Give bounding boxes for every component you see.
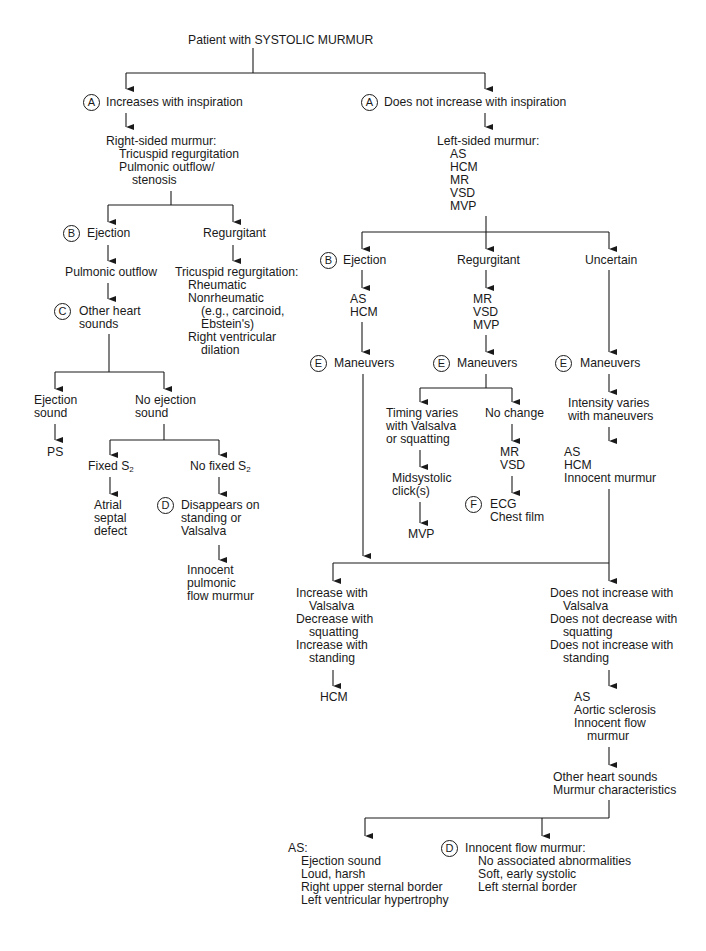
node-line: click(s) [392,485,452,498]
node-line: Murmur characteristics [553,784,676,797]
node-left-regurgitant: Regurgitant [203,227,266,240]
node-mr-vsd: MR VSD [500,446,525,472]
node-as-hcm: AS HCM [350,293,378,319]
node-other-heart-sounds: Other heart sounds [79,305,141,331]
node-mr-vsd-mvp: MR VSD MVP [473,293,499,332]
node-left-sided-murmur: Left-sided murmur: AS HCM MR VSD MVP [437,135,539,213]
node-ps: PS [47,446,63,459]
node-line: Valsalva [181,525,260,538]
node-left-ejection: Ejection [87,227,130,240]
node-line: MVP [437,200,539,213]
node-line: Innocent murmur [564,472,656,485]
step-letter-c-icon: C [54,303,71,320]
node-mvp: MVP [408,528,434,541]
systolic-murmur-flowchart: Patient with SYSTOLIC MURMUR A Increases… [0,0,706,951]
node-right-regurgitant: Regurgitant [457,254,520,267]
step-letter-e-icon: E [433,355,450,372]
step-letter-d-icon: D [441,840,458,857]
node-line: standing [550,652,677,665]
node-disappears-standing: Disappears on standing or Valsalva [181,499,260,538]
node-line: stenosis [106,174,239,187]
node-line: standing [296,652,373,665]
root-node-title: Patient with SYSTOLIC MURMUR [188,34,373,47]
node-line: sound [34,407,77,420]
node-uncertain: Uncertain [585,254,637,267]
node-maneuvers-uncertain: Maneuvers [580,357,640,370]
node-no-fixed-s2: No fixed S2 [190,460,251,473]
node-atrial-septal-defect: Atrial septal defect [94,499,127,538]
node-label: No fixed S [190,459,246,473]
node-as-aortic-sclerosis: AS Aortic sclerosis Innocent flow murmur [574,691,656,743]
step-letter-e-icon: E [555,355,572,372]
node-line: murmur [574,730,656,743]
node-line: MVP [473,319,499,332]
node-does-not-increase-valsalva: Does not increase with Valsalva Does not… [550,587,677,665]
node-line: Left sternal border [465,881,631,894]
node-no-ejection-sound: No ejection sound [135,394,196,420]
node-increase-valsalva: Increase with Valsalva Decrease with squ… [296,587,373,665]
node-pulmonic-outflow: Pulmonic outflow [65,266,157,279]
node-line: Left ventricular hypertrophy [288,894,449,907]
node-right-sided-murmur: Right-sided murmur: Tricuspid regurgitat… [106,135,239,187]
node-line: dilation [175,344,299,357]
node-fixed-s2: Fixed S2 [88,460,134,473]
node-line: HCM [350,306,378,319]
step-letter-b-icon: B [63,225,80,242]
step-letter-e-icon: E [310,355,327,372]
node-intensity-varies: Intensity varies with maneuvers [568,397,653,423]
step-letter-a-icon: A [361,94,378,111]
node-other-heart-sounds-murmur: Other heart sounds Murmur characteristic… [553,771,676,797]
node-innocent-pulmonic-flow: Innocent pulmonic flow murmur [187,564,254,603]
node-line: defect [94,525,127,538]
node-line: with maneuvers [568,410,653,423]
step-letter-a-icon: A [83,94,100,111]
node-line: sounds [79,318,141,331]
step-letter-d-icon: D [157,497,174,514]
step-letter-f-icon: F [465,496,482,513]
node-as-hcm-innocent: AS HCM Innocent murmur [564,446,656,485]
node-innocent-flow-characteristics: Innocent flow murmur: No associated abno… [465,842,631,894]
node-timing-varies: Timing varies with Valsalva or squatting [386,407,458,446]
node-maneuvers-ejection: Maneuvers [334,357,394,370]
node-line: flow murmur [187,590,254,603]
node-ejection-sound: Ejection sound [34,394,77,420]
node-as-characteristics: AS: Ejection sound Loud, harsh Right upp… [288,842,449,907]
node-label: Fixed S [88,459,129,473]
node-line: VSD [500,459,525,472]
node-line: Chest film [490,511,544,524]
node-maneuvers-regurgitant: Maneuvers [457,357,517,370]
node-right-ejection: Ejection [343,254,386,267]
node-line: sound [135,407,196,420]
step-letter-b-icon: B [320,252,337,269]
subscript: 2 [246,465,250,474]
node-midsystolic-click: Midsystolic click(s) [392,472,452,498]
node-hcm-result: HCM [320,691,348,704]
node-no-change: No change [485,407,544,420]
node-line: or squatting [386,433,458,446]
node-ecg-chest-film: ECG Chest film [490,498,544,524]
node-not-increases-inspiration: Does not increase with inspiration [384,96,566,109]
node-increases-inspiration: Increases with inspiration [106,96,243,109]
node-tricuspid-regurgitation: Tricuspid regurgitation: Rheumatic Nonrh… [175,266,299,357]
subscript: 2 [129,465,133,474]
